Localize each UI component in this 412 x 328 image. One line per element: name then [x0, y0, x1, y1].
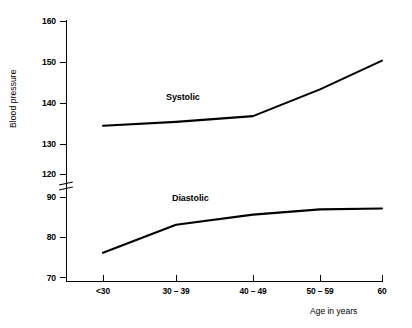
- systolic-line: [103, 61, 382, 126]
- diastolic-series-label: Diastolic: [172, 193, 209, 203]
- plot-area: [0, 0, 412, 328]
- diastolic-line: [103, 209, 382, 253]
- systolic-series-label: Systolic: [166, 92, 200, 102]
- blood-pressure-line-chart: Blood pressure Age in years 160 150 140 …: [0, 0, 412, 328]
